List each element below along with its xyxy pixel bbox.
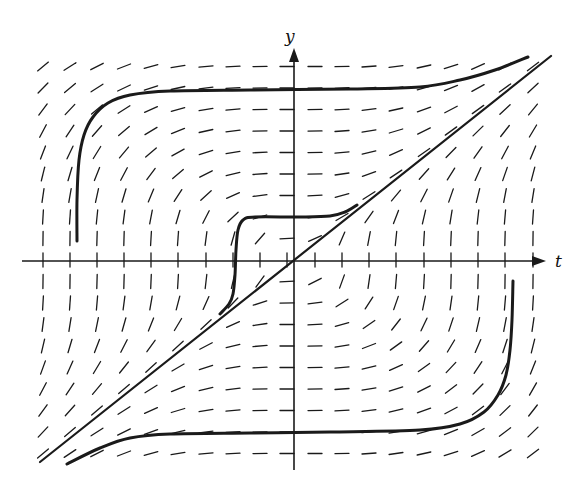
slope-segment <box>392 319 401 330</box>
slope-segment <box>171 409 184 413</box>
slope-segment <box>499 450 511 457</box>
slope-segment <box>335 109 349 110</box>
slope-segment <box>172 149 184 156</box>
slope-segment <box>450 210 452 224</box>
slope-segment <box>69 318 71 332</box>
slope-segment <box>472 451 485 457</box>
slope-segment <box>95 339 100 352</box>
slope-segment <box>445 429 458 434</box>
slope-segment <box>151 275 152 289</box>
slope-segment <box>199 453 213 454</box>
slope-segment <box>171 108 184 112</box>
slope-segment <box>335 194 349 198</box>
slope-segment <box>118 106 130 113</box>
slope-segment <box>445 407 457 414</box>
slope-segment <box>501 126 510 137</box>
slope-segment <box>65 84 76 93</box>
slope-segment <box>123 296 125 310</box>
slope-segment <box>118 429 131 435</box>
slope-segment <box>226 453 240 454</box>
slope-segment <box>200 343 212 350</box>
slope-segment <box>527 449 538 457</box>
slope-segment <box>504 189 507 203</box>
slope-segment <box>529 125 536 137</box>
slope-segment <box>228 212 238 222</box>
slope-segment <box>418 128 431 134</box>
slope-segment <box>122 189 126 202</box>
slope-segment <box>418 363 429 371</box>
slope-segment <box>176 296 180 310</box>
slope-segment <box>500 105 510 115</box>
solution-curve <box>40 56 551 462</box>
slope-segment <box>199 409 213 411</box>
slope-segment <box>473 126 483 136</box>
slope-segment <box>368 232 371 246</box>
slope-segment <box>43 210 44 224</box>
direction-field-segments <box>38 62 539 458</box>
slope-segment <box>528 83 538 93</box>
slope-segment <box>171 87 185 90</box>
slope-segment <box>362 172 375 177</box>
slope-segment <box>339 232 345 245</box>
slope-segment <box>42 318 44 332</box>
slope-segment <box>445 385 456 393</box>
slope-segment <box>226 88 240 89</box>
slope-segment <box>38 427 48 437</box>
slope-segment <box>151 232 152 246</box>
slope-segment <box>423 296 426 310</box>
t-axis-label: t <box>555 251 562 271</box>
slope-segment <box>205 275 207 289</box>
slope-segment <box>362 109 376 111</box>
slope-segment <box>203 297 209 310</box>
slope-segment <box>66 125 74 137</box>
slope-segment <box>176 210 180 223</box>
slope-segment <box>201 191 211 200</box>
slope-segment <box>533 296 534 310</box>
slope-segment <box>147 340 155 351</box>
slope-segment <box>199 108 213 110</box>
slope-segment <box>226 172 240 175</box>
slope-segment <box>499 428 510 436</box>
slope-segment <box>335 152 349 153</box>
slope-segment <box>39 104 47 115</box>
slope-segment <box>40 383 47 395</box>
slope-segment <box>390 342 401 350</box>
slope-segment <box>531 339 534 353</box>
slope-segment <box>253 367 267 368</box>
slope-segment <box>389 66 403 68</box>
solution-curves <box>40 56 551 464</box>
slope-segment <box>389 129 402 133</box>
slope-segment <box>70 296 71 310</box>
y-axis-arrow-icon <box>289 48 299 62</box>
slope-segment <box>65 405 74 415</box>
slope-segment <box>451 232 452 246</box>
slope-segment <box>147 168 155 179</box>
slope-segment <box>472 429 484 436</box>
y-axis-label: y <box>284 26 295 46</box>
slope-segment <box>504 210 505 224</box>
slope-segment <box>41 361 46 374</box>
slope-segment <box>445 85 458 90</box>
slope-segment <box>477 210 479 224</box>
slope-segment <box>150 210 153 224</box>
slope-segment <box>38 62 49 71</box>
slope-segment <box>335 367 349 368</box>
slope-segment <box>280 238 294 239</box>
slope-segment <box>226 410 240 411</box>
slope-segment <box>389 409 403 412</box>
slope-segment <box>65 104 75 114</box>
slope-segment <box>422 210 425 224</box>
slope-segment <box>395 275 396 289</box>
slope-segment <box>199 150 212 154</box>
slope-segment <box>424 275 425 289</box>
slope-segment <box>145 107 158 113</box>
slope-segment <box>93 147 100 159</box>
slope-segment <box>308 195 322 196</box>
slope-segment <box>394 210 399 223</box>
slope-segment <box>392 190 401 201</box>
slope-segment <box>118 451 131 456</box>
slope-field-plot: t y <box>0 0 578 484</box>
slope-segment <box>444 64 457 68</box>
slope-segment <box>255 233 264 243</box>
slope-segment <box>67 146 73 159</box>
